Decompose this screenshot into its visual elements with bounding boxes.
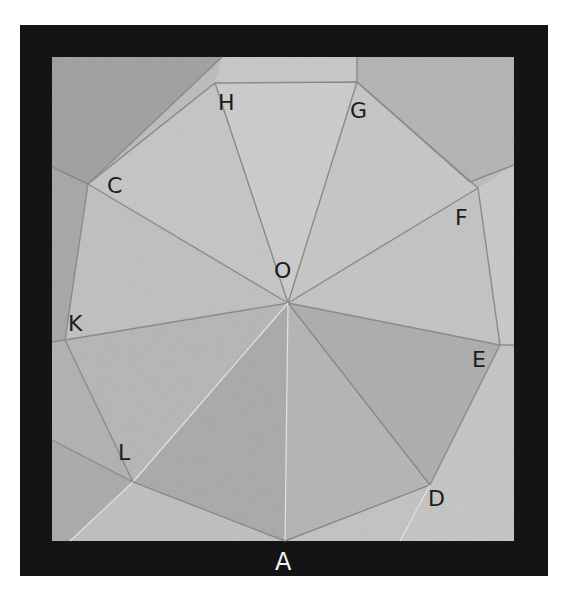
label-C: C [107,173,122,198]
label-K: K [68,311,83,336]
paper [52,57,514,541]
label-A: A [275,548,292,576]
label-E: E [472,347,486,372]
label-O: O [274,258,291,283]
label-L: L [118,440,131,465]
label-G: G [350,98,367,123]
label-D: D [428,486,445,511]
flap-top-band [215,57,357,83]
label-H: H [218,90,235,115]
label-F: F [455,205,468,230]
folded-polygon-figure: H G C F O K E L D A [0,0,570,598]
